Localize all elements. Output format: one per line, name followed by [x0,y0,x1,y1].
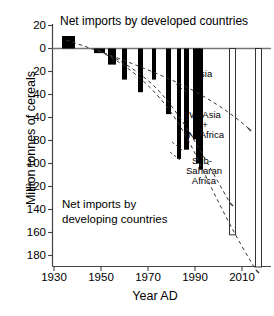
x-tick-marks [54,267,242,272]
bar [122,49,127,80]
bar [138,49,143,93]
trend-curve-w-asia-n-africa [97,50,230,203]
trend-curve-asia-endpoint [248,128,251,131]
bar [152,49,156,80]
axis-spines [53,24,272,267]
chart-figure: Million tonnes of cereals 20 0 20 40 40 … [0,0,274,316]
trend-curve-asia [66,40,248,128]
bar [177,49,181,159]
bar-projected [256,49,262,268]
y-tick-marks [48,26,53,256]
bar-series-projected [230,49,262,268]
bar-projected [230,49,236,235]
bar [166,49,171,115]
chart-canvas [0,0,274,316]
trend-curve-sub-saharan-africa-endpoint [256,270,259,273]
